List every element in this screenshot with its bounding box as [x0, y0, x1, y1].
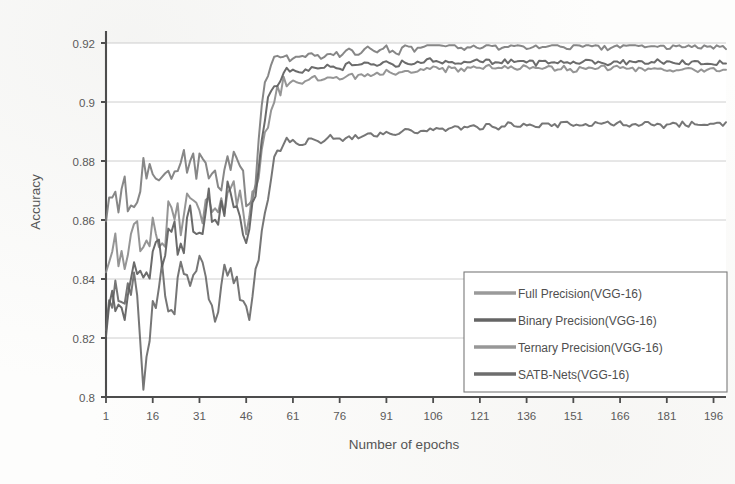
x-tick-label-10: 151 [564, 410, 583, 422]
legend-label-3: SATB-Nets(VGG-16) [518, 368, 629, 382]
legend-label-2: Ternary Precision(VGG-16) [518, 341, 663, 355]
x-tick-label-3: 46 [240, 410, 253, 422]
x-tick-label-11: 166 [610, 410, 629, 422]
y-tick-label-2: 0.84 [73, 274, 96, 286]
x-tick-label-6: 91 [380, 410, 393, 422]
x-tick-label-1: 16 [146, 410, 159, 422]
y-axis-ticks: 0.80.820.840.860.880.90.92 [73, 38, 106, 404]
legend: Full Precision(VGG-16)Binary Precision(V… [464, 272, 727, 392]
x-tick-label-2: 31 [193, 410, 206, 422]
x-tick-label-5: 76 [333, 410, 346, 422]
legend-label-0: Full Precision(VGG-16) [518, 287, 642, 301]
y-tick-label-6: 0.92 [73, 38, 95, 50]
x-tick-label-4: 61 [287, 410, 300, 422]
legend-label-1: Binary Precision(VGG-16) [518, 314, 657, 328]
x-tick-label-0: 1 [103, 410, 109, 422]
y-tick-label-0: 0.8 [79, 392, 95, 404]
y-tick-label-1: 0.82 [73, 333, 95, 345]
x-tick-label-9: 136 [517, 410, 536, 422]
accuracy-vs-epochs-chart: 0.80.820.840.860.880.90.9211631466176911… [0, 0, 735, 484]
y-axis-title: Accuracy [28, 174, 43, 230]
y-tick-label-5: 0.9 [79, 97, 95, 109]
y-tick-label-4: 0.88 [73, 156, 95, 168]
x-tick-label-7: 106 [424, 410, 443, 422]
y-tick-label-3: 0.86 [73, 215, 95, 227]
x-axis-ticks: 1163146617691106121136151166181196 [103, 397, 723, 422]
x-axis-title: Number of epochs [349, 437, 460, 452]
chart-svg: 0.80.820.840.860.880.90.9211631466176911… [0, 0, 735, 484]
x-tick-label-12: 181 [657, 410, 676, 422]
x-tick-label-8: 121 [470, 410, 489, 422]
x-tick-label-13: 196 [704, 410, 723, 422]
